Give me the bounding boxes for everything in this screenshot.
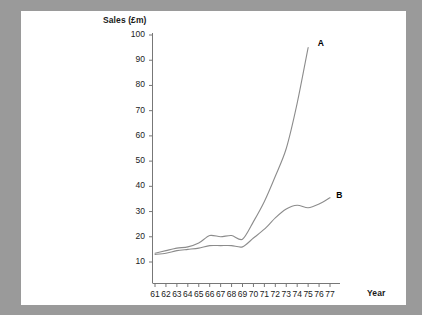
y-tick-label: 40 — [119, 180, 145, 190]
y-tick-label: 90 — [119, 54, 145, 64]
series-label-b: B — [336, 190, 342, 200]
y-tick-label: 100 — [119, 29, 145, 39]
y-axis-title: Sales (£m) — [103, 15, 147, 25]
y-tick-label: 30 — [119, 206, 145, 216]
y-tick-label: 20 — [119, 231, 145, 241]
y-tick-label: 70 — [119, 105, 145, 115]
series-a-line — [155, 48, 308, 254]
y-tick-label: 10 — [119, 256, 145, 266]
figure-frame: Sales (£m) Year 102030405060708090100 61… — [0, 0, 422, 315]
y-tick-label: 50 — [119, 155, 145, 165]
series-b-line — [155, 198, 330, 255]
y-tick-label: 80 — [119, 79, 145, 89]
x-tick-label: 77 — [323, 289, 337, 299]
x-axis-title: Year — [367, 288, 385, 298]
line-chart-canvas — [0, 0, 422, 315]
series-label-a: A — [318, 38, 324, 48]
y-tick-label: 60 — [119, 130, 145, 140]
